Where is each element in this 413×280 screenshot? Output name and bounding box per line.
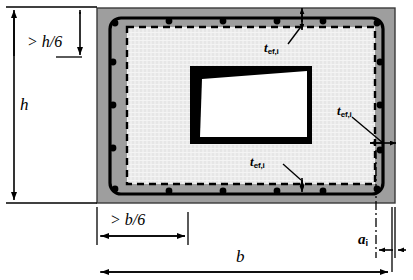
label-thickness-right: tef,i (337, 104, 351, 117)
rebar-dot (166, 18, 173, 25)
rebar-dot (166, 188, 173, 195)
label-thickness-right-sub: ef,i (341, 110, 352, 119)
rebar-dot (377, 102, 384, 109)
rebar-dot (320, 18, 327, 25)
label-thickness-bottom-sub: ef,i (254, 161, 265, 170)
rebar-dot (374, 186, 381, 193)
label-height: h (20, 96, 29, 113)
label-min-height-zone: > h/6 (27, 34, 62, 50)
label-thickness-bottom: tef,i (250, 155, 264, 168)
label-thickness-top: tef,i (264, 41, 278, 54)
label-edge-distance-sub: i (366, 238, 368, 248)
rebar-dot (274, 18, 281, 25)
hollow-void (190, 66, 312, 144)
rebar-dot (110, 102, 117, 109)
rebar-dot (110, 59, 117, 66)
label-min-width-zone: > b/6 (110, 212, 145, 228)
rebar-dot (110, 145, 117, 152)
label-edge-distance-base: a (358, 231, 366, 247)
rebar-dot (220, 188, 227, 195)
rebar-dot (377, 59, 384, 66)
rebar-dot (274, 188, 281, 195)
rebar-dot (220, 18, 227, 25)
label-edge-distance: ai (358, 232, 368, 247)
label-width: b (236, 248, 245, 265)
label-thickness-top-sub: ef,i (268, 47, 279, 56)
rebar-dot (320, 188, 327, 195)
rebar-dot (374, 20, 381, 27)
figure-canvas: > h/6 h > b/6 b tef,i tef,i tef,i ai (0, 0, 413, 280)
rebar-dot (112, 20, 119, 27)
rebar-dot (377, 147, 384, 154)
rebar-dot (112, 186, 119, 193)
